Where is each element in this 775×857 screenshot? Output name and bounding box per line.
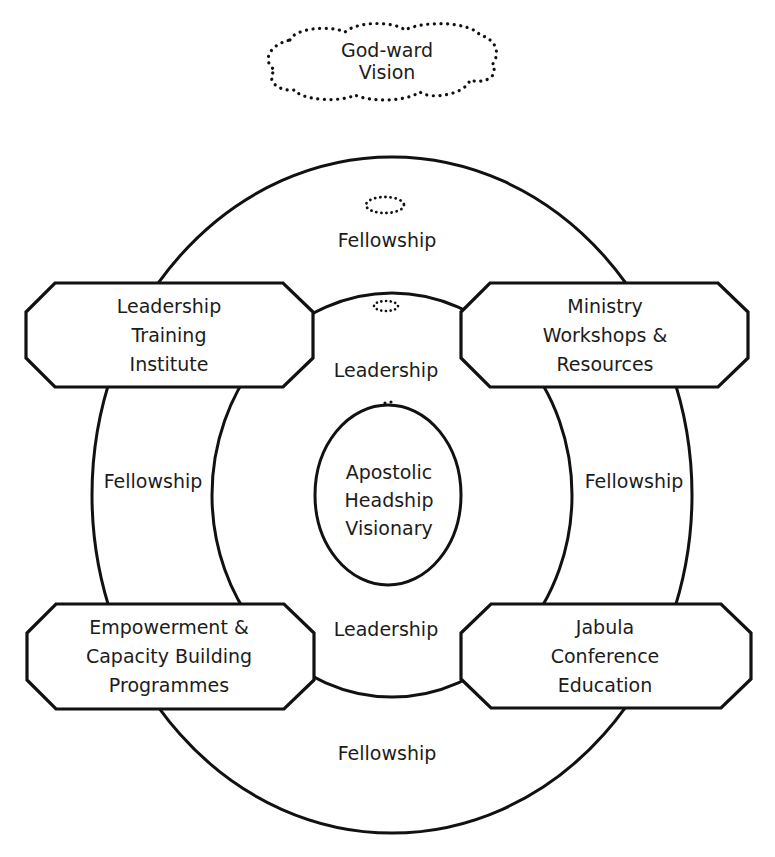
box-leadership-training-institute: Leadership Training Institute (117, 292, 221, 379)
fellowship-label-left: Fellowship (104, 468, 203, 494)
box-tl-line-3: Institute (117, 350, 221, 379)
box-jabula-conference-education: Jabula Conference Education (551, 613, 660, 700)
box-bl-line-2: Capacity Building (86, 642, 252, 671)
box-tr-line-2: Workshops & (543, 321, 668, 350)
box-br-line-2: Conference (551, 642, 660, 671)
vision-label: God-ward Vision (341, 39, 433, 83)
box-empowerment-capacity-building: Empowerment & Capacity Building Programm… (86, 613, 252, 700)
center-headship-label: Apostolic Headship Visionary (345, 458, 434, 542)
center-line-2: Headship (345, 486, 434, 514)
box-ministry-workshops-resources: Ministry Workshops & Resources (543, 292, 668, 379)
fellowship-label-right: Fellowship (585, 468, 684, 494)
box-tl-line-1: Leadership (117, 292, 221, 321)
box-tr-line-1: Ministry (543, 292, 668, 321)
box-tr-line-3: Resources (543, 350, 668, 379)
box-br-line-3: Education (551, 671, 660, 700)
fellowship-label-bottom: Fellowship (338, 740, 437, 766)
vision-line-1: God-ward (341, 39, 433, 61)
small-dotted-oval-middle (374, 301, 398, 311)
box-bl-line-1: Empowerment & (86, 613, 252, 642)
fellowship-label-top: Fellowship (338, 227, 437, 253)
center-line-1: Apostolic (345, 458, 434, 486)
leadership-label-top: Leadership (334, 357, 438, 383)
box-br-line-1: Jabula (551, 613, 660, 642)
diagram-canvas (0, 0, 775, 857)
small-dotted-oval-outer (366, 197, 404, 213)
center-line-3: Visionary (345, 514, 434, 542)
box-bl-line-3: Programmes (86, 671, 252, 700)
vision-line-2: Vision (341, 61, 433, 83)
leadership-label-bottom: Leadership (334, 616, 438, 642)
box-tl-line-2: Training (117, 321, 221, 350)
